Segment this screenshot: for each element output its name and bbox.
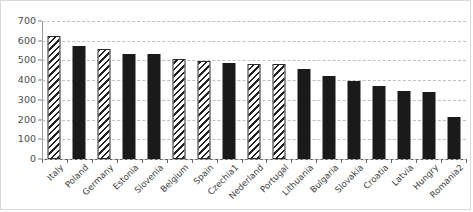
bar-slot [42,21,67,159]
bar-poland[interactable] [73,46,86,159]
bar-croatia[interactable] [372,86,385,159]
x-tick-mark [466,159,467,163]
bar-bulgaria[interactable] [322,76,335,159]
bar-slot [291,21,316,159]
bar-slovakia[interactable] [347,81,360,159]
bar-slot [67,21,92,159]
bar-slot [416,21,441,159]
y-tick-label-400: 400 [18,75,36,85]
bar-slot [192,21,217,159]
bar-slot [341,21,366,159]
x-label-croatia: Croatia [362,163,390,191]
bar-portugal[interactable] [272,64,285,159]
bar-slot [142,21,167,159]
x-axis-category-labels: ItalyPolandGermanyEstoniaSloveniaBelgium… [42,163,466,211]
bar-slot [441,21,466,159]
bar-slot [266,21,291,159]
bar-nederland[interactable] [247,64,260,159]
bar-slot [92,21,117,159]
y-tick-label-600: 600 [18,36,36,46]
bar-romania2[interactable] [447,117,460,159]
bar-czechia1[interactable] [223,63,236,159]
bar-belgium[interactable] [173,59,186,159]
bar-slot [242,21,267,159]
bar-slot [391,21,416,159]
x-label-italy: Italy [46,163,65,182]
y-tick-label-500: 500 [18,56,36,66]
y-tick-label-200: 200 [18,115,36,125]
bar-germany[interactable] [98,49,111,159]
gridline-0 [42,159,466,160]
bar-slot [217,21,242,159]
y-tick-label-100: 100 [18,135,36,145]
bar-slot [117,21,142,159]
bar-chart-figure: 0100200300400500600700 ItalyPolandGerman… [0,0,471,210]
bar-estonia[interactable] [123,54,136,159]
bar-latvia[interactable] [397,91,410,159]
y-tick-label-0: 0 [30,154,36,164]
bar-slovenia[interactable] [148,54,161,159]
bar-italy[interactable] [48,36,61,159]
y-tick-label-700: 700 [18,16,36,26]
y-tick-label-300: 300 [18,95,36,105]
bar-slot [316,21,341,159]
bar-series [42,21,466,159]
bar-spain[interactable] [198,61,211,159]
bar-slot [167,21,192,159]
bar-lithuania[interactable] [297,69,310,159]
bar-slot [366,21,391,159]
bar-hungry[interactable] [422,92,435,159]
plot-area: 0100200300400500600700 [42,21,466,159]
